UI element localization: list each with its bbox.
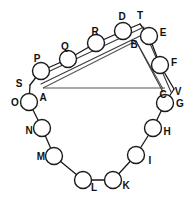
node-label-e: E xyxy=(160,28,167,38)
node-label-f: F xyxy=(171,58,177,68)
node-label-p: P xyxy=(34,54,41,64)
node-label-i: I xyxy=(149,156,152,166)
node-label-q: Q xyxy=(61,42,69,52)
node-label-v: V xyxy=(175,87,182,97)
node-label-h: H xyxy=(163,127,170,137)
roller-node-i[interactable] xyxy=(128,147,145,164)
roller-node-m[interactable] xyxy=(46,148,63,165)
node-label-d: D xyxy=(118,12,125,22)
node-label-r: R xyxy=(91,27,98,37)
node-label-o: O xyxy=(11,98,19,108)
roller-node-f[interactable] xyxy=(152,57,169,74)
node-label-n: N xyxy=(25,126,32,136)
roller-node-q[interactable] xyxy=(60,51,77,68)
node-label-b: B xyxy=(130,40,137,50)
node-label-l: L xyxy=(91,183,97,193)
roller-node-e[interactable] xyxy=(141,28,158,45)
roller-node-h[interactable] xyxy=(145,120,162,137)
node-label-t: T xyxy=(137,11,143,21)
node-label-g: G xyxy=(176,99,184,109)
roller-node-p[interactable] xyxy=(33,63,50,80)
node-label-s: S xyxy=(16,79,23,89)
node-label-m: M xyxy=(37,152,45,162)
roller-node-l[interactable] xyxy=(75,172,92,189)
roller-node-o[interactable] xyxy=(21,94,38,111)
roller-node-r[interactable] xyxy=(88,35,105,52)
roller-node-k[interactable] xyxy=(105,172,122,189)
roller-node-d[interactable] xyxy=(115,23,132,40)
roller-node-n[interactable] xyxy=(34,120,51,137)
mechanism-diagram: ABCPQRDEFGHIKLMNOSTV xyxy=(0,0,194,201)
node-label-a: A xyxy=(39,93,46,103)
node-label-c: C xyxy=(159,90,166,100)
node-label-k: K xyxy=(122,181,129,191)
